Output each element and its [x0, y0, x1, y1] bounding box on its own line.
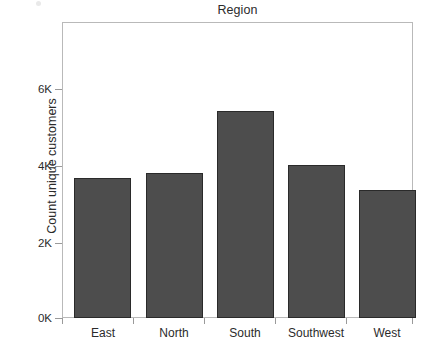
y-tick-mark	[55, 243, 62, 244]
chart-title: Region	[62, 2, 413, 18]
y-tick-mark	[55, 166, 62, 167]
bar-southwest[interactable]	[288, 165, 345, 318]
y-tick-mark	[55, 318, 62, 319]
bar-south[interactable]	[217, 111, 274, 318]
bar-north[interactable]	[146, 173, 203, 318]
bar-chart: Region Count unique customers 6K4K2K0K E…	[0, 0, 428, 348]
y-tick-label: 4K	[38, 159, 52, 173]
y-tick-label: 0K	[38, 311, 52, 325]
bar-west[interactable]	[359, 190, 416, 318]
bar-east[interactable]	[74, 178, 131, 318]
y-tick-label: 6K	[38, 82, 52, 96]
y-tick-label: 2K	[38, 236, 52, 250]
x-axis-label-west: West	[337, 324, 428, 342]
plot-area	[62, 22, 413, 318]
y-axis-ticks: 6K4K2K0K	[0, 0, 62, 348]
x-axis-labels: EastNorthSouthSouthwestWest	[62, 324, 413, 344]
y-tick-mark	[55, 89, 62, 90]
